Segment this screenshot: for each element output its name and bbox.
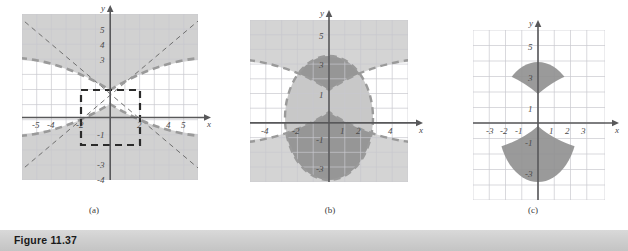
x-tick-b-1: -2: [292, 126, 300, 136]
x-tick-c-3: 1: [549, 126, 554, 136]
panel-c: x y -3 -2 -1 1 2 3 5 3 1 -1 -3: [442, 0, 628, 200]
figure-banner: [0, 230, 628, 251]
x-tick-a-2: -2: [76, 120, 84, 130]
y-tick-c-4: -3: [525, 169, 533, 179]
panel-caption-b: (b): [310, 205, 350, 215]
y-axis-arrow-a: [107, 5, 114, 12]
y-tick-a-3: -1: [97, 130, 105, 140]
y-axis-arrow-b: [326, 10, 333, 17]
panel-b-plot: x y -4 -2 1 2 4 5 3 1 -1 -3: [228, 0, 433, 200]
y-tick-b-3: -1: [316, 135, 324, 145]
y-tick-c-3: -1: [525, 138, 533, 148]
y-tick-b-0: 5: [319, 31, 324, 41]
x-tick-a-5: 5: [181, 120, 186, 130]
x-tick-b-3: 2: [356, 126, 361, 136]
y-tick-a-5: -4: [97, 175, 105, 185]
y-tick-a-2: 3: [99, 55, 105, 65]
panel-caption-c: (c): [513, 205, 553, 215]
y-axis-label-a: y: [100, 3, 105, 13]
y-tick-a-0: 5: [100, 25, 105, 35]
x-tick-b-4: 4: [388, 126, 393, 136]
y-tick-a-1: 4: [100, 40, 105, 50]
figure-area: x y -5 -4 -2 2 4 5 5 4 3 -1 -3 -4 (a): [0, 0, 628, 227]
x-tick-c-5: 3: [580, 126, 586, 136]
x-tick-c-2: -1: [515, 126, 523, 136]
x-tick-c-0: -3: [486, 126, 494, 136]
x-tick-c-4: 2: [565, 126, 570, 136]
x-axis-label-b: x: [418, 125, 423, 135]
y-axis-label-c: y: [528, 18, 533, 28]
y-axis-arrow-c: [535, 20, 542, 27]
y-tick-b-2: 1: [319, 90, 324, 100]
x-tick-a-1: -4: [47, 120, 55, 130]
figure-number-label: Figure 11.37: [14, 234, 77, 246]
x-tick-b-2: 1: [340, 126, 345, 136]
y-tick-c-1: 3: [527, 73, 533, 83]
panel-c-plot: x y -3 -2 -1 1 2 3 5 3 1 -1 -3: [442, 0, 628, 200]
y-tick-c-2: 1: [528, 104, 533, 114]
x-tick-a-3: 2: [137, 120, 142, 130]
panel-caption-a: (a): [74, 205, 114, 215]
x-axis-label-c: x: [614, 125, 619, 135]
x-tick-c-1: -2: [500, 126, 508, 136]
panel-a: x y -5 -4 -2 2 4 5 5 4 3 -1 -3 -4: [8, 0, 213, 200]
x-tick-a-4: 4: [166, 120, 171, 130]
panel-b: x y -4 -2 1 2 4 5 3 1 -1 -3: [228, 0, 433, 200]
y-axis-label-b: y: [319, 8, 324, 18]
y-tick-b-4: -3: [316, 164, 324, 174]
y-tick-b-1: 3: [318, 60, 324, 70]
y-tick-c-0: 5: [528, 42, 533, 52]
x-axis-label-a: x: [206, 119, 211, 129]
y-tick-a-4: -3: [97, 160, 105, 170]
x-tick-b-0: -4: [261, 126, 269, 136]
panel-a-plot: x y -5 -4 -2 2 4 5 5 4 3 -1 -3 -4: [8, 0, 213, 200]
x-tick-a-0: -5: [32, 120, 40, 130]
